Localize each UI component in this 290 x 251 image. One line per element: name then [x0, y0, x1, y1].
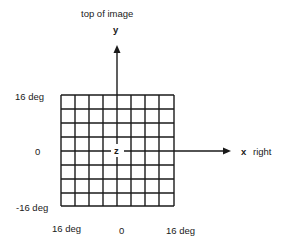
bottom-tick-left: 16 deg: [52, 224, 81, 234]
y-arrowhead-icon: [114, 45, 121, 53]
y-axis-label: y: [113, 25, 118, 35]
left-tick-top: 16 deg: [15, 92, 44, 102]
center-z-label: z: [114, 146, 119, 156]
bottom-tick-right: 16 deg: [166, 226, 195, 236]
left-tick-middle: 0: [35, 147, 40, 157]
x-axis-label: x: [241, 147, 246, 157]
coordinate-grid-diagram: [0, 0, 290, 251]
left-tick-bottom: -16 deg: [16, 203, 48, 213]
top-of-image-label: top of image: [81, 9, 133, 19]
bottom-tick-middle: 0: [119, 226, 124, 236]
x-direction-label: right: [253, 147, 271, 157]
x-arrowhead-icon: [223, 148, 231, 155]
